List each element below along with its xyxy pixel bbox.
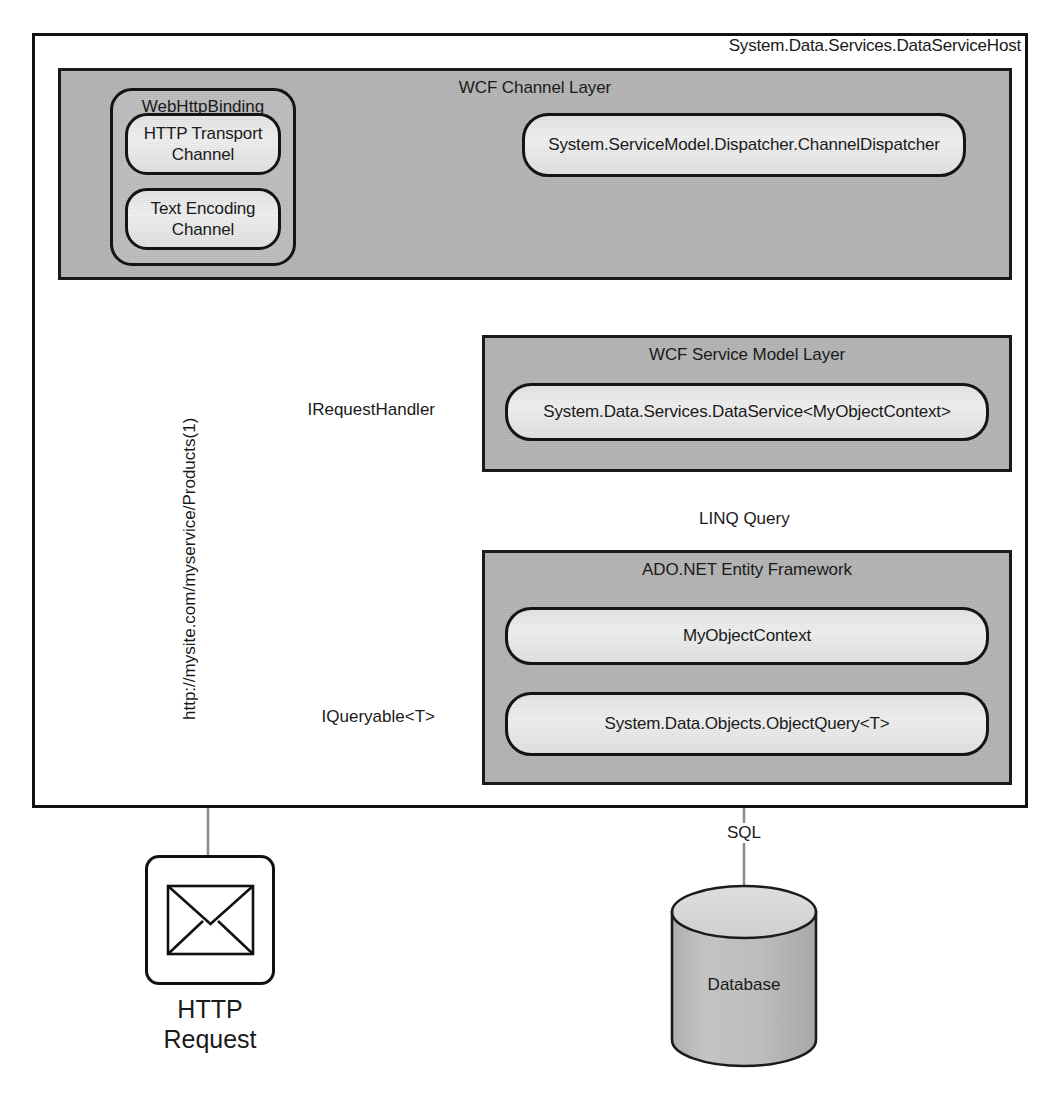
component-object-query-label: System.Data.Objects.ObjectQuery<T>	[605, 713, 890, 734]
http-request-icon-frame[interactable]	[145, 855, 275, 985]
component-text-encoding-channel-label: Text Encoding Channel	[151, 198, 256, 241]
wcf-service-model-layer-title: WCF Service Model Layer	[485, 345, 1009, 365]
component-my-object-context[interactable]: MyObjectContext	[505, 607, 989, 665]
component-channel-dispatcher-label: System.ServiceModel.Dispatcher.ChannelDi…	[548, 134, 940, 155]
dataservicehost-title: System.Data.Services.DataServiceHost	[729, 36, 1021, 56]
edge-sql-arrowhead	[735, 890, 753, 908]
component-object-query[interactable]: System.Data.Objects.ObjectQuery<T>	[505, 692, 989, 756]
component-http-transport-channel-label: HTTP Transport Channel	[144, 123, 263, 166]
http-request-caption: HTTP Request	[105, 995, 315, 1054]
component-channel-dispatcher[interactable]: System.ServiceModel.Dispatcher.ChannelDi…	[522, 113, 966, 177]
edge-label-request-url: http://mysite.com/myservice/Products(1)	[180, 418, 200, 720]
component-data-service[interactable]: System.Data.Services.DataService<MyObjec…	[505, 383, 989, 441]
diagram-canvas: System.Data.Services.DataServiceHost WCF…	[0, 0, 1057, 1093]
component-http-transport-channel[interactable]: HTTP Transport Channel	[125, 113, 281, 175]
edge-label-linq-query: LINQ Query	[694, 509, 795, 529]
http-request-caption-line1: HTTP	[105, 995, 315, 1025]
ado-net-entity-framework-title: ADO.NET Entity Framework	[485, 560, 1009, 580]
component-my-object-context-label: MyObjectContext	[683, 625, 811, 646]
edge-label-sql: SQL	[722, 823, 766, 843]
http-request-caption-line2: Request	[105, 1025, 315, 1055]
iface-irequesthandler-label: IRequestHandler	[230, 400, 435, 420]
component-text-encoding-channel[interactable]: Text Encoding Channel	[125, 188, 281, 250]
database-caption: Database	[644, 975, 844, 995]
component-data-service-label: System.Data.Services.DataService<MyObjec…	[543, 401, 950, 422]
iface-iqueryable-label: IQueryable<T>	[230, 707, 435, 727]
